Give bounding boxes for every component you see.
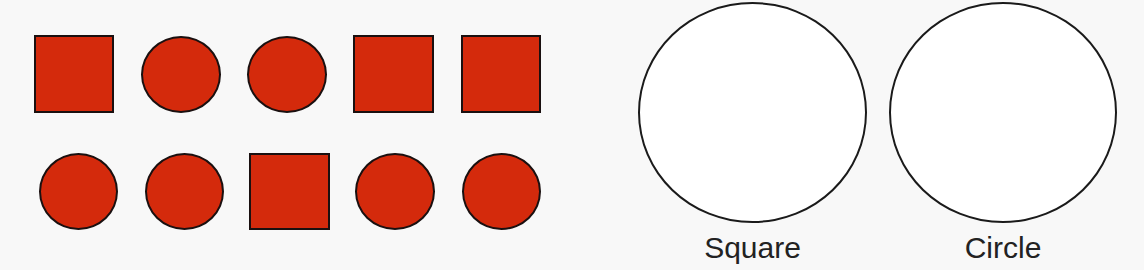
red-square-shape xyxy=(461,35,541,113)
red-square-shape xyxy=(353,35,434,113)
red-square-shape xyxy=(34,35,114,113)
red-circle-shape xyxy=(145,153,224,230)
sorting-circle-square xyxy=(638,2,867,223)
red-square-shape xyxy=(249,153,330,230)
sorting-label-circle: Circle xyxy=(889,233,1117,263)
red-circle-shape xyxy=(141,36,221,113)
sorting-label-square: Square xyxy=(638,233,867,263)
sorting-circle-circle xyxy=(889,2,1117,223)
red-circle-shape xyxy=(462,153,541,230)
red-circle-shape xyxy=(39,153,118,230)
red-circle-shape xyxy=(247,36,327,113)
red-circle-shape xyxy=(355,153,435,230)
